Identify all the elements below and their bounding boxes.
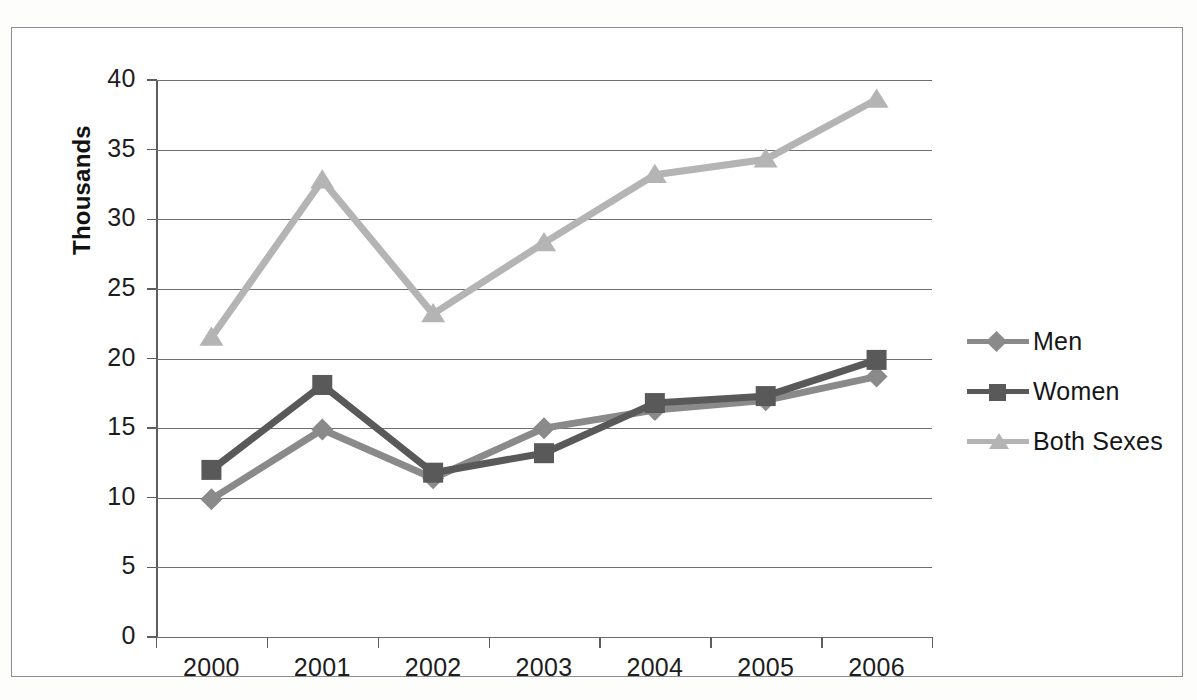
legend-item-men[interactable]: Men: [967, 316, 1192, 366]
data-point-2006: [865, 88, 889, 107]
x-tick-2: [378, 637, 379, 648]
y-axis-label-35: 35: [74, 134, 136, 163]
legend-item-women[interactable]: Women: [967, 366, 1192, 416]
data-point-2001: [310, 169, 334, 188]
y-axis-label-20: 20: [74, 343, 136, 372]
x-tick-0: [156, 637, 157, 648]
legend-swatch: [967, 330, 1029, 352]
x-tick-1: [267, 637, 268, 648]
data-point-2002: [423, 463, 443, 483]
data-point-2000: [201, 460, 221, 480]
legend-label: Women: [1033, 377, 1120, 406]
chart-page: Thousands 0510152025303540 2000200120022…: [0, 0, 1197, 700]
legend-marker-diamond-icon: [986, 331, 1007, 352]
legend-item-both-sexes[interactable]: Both Sexes: [967, 416, 1192, 466]
x-tick-4: [599, 637, 600, 648]
x-axis-label-2005: 2005: [706, 653, 826, 682]
x-tick-5: [710, 637, 711, 648]
chart-frame: Thousands 0510152025303540 2000200120022…: [11, 27, 1183, 677]
data-point-2005: [756, 386, 776, 406]
data-point-2001: [312, 375, 332, 395]
x-axis-label-2000: 2000: [151, 653, 271, 682]
y-axis-label-10: 10: [74, 482, 136, 511]
x-axis-label-2002: 2002: [373, 653, 493, 682]
gridline-0: [156, 637, 932, 638]
legend-marker-triangle-icon: [989, 433, 1009, 449]
y-axis-label-0: 0: [74, 621, 136, 650]
series-both-sexes: [199, 88, 888, 345]
legend-label: Both Sexes: [1033, 427, 1163, 456]
data-point-2004: [645, 393, 665, 413]
x-tick-7: [932, 637, 933, 648]
y-axis-label-15: 15: [74, 412, 136, 441]
x-tick-3: [489, 637, 490, 648]
data-point-2003: [533, 417, 555, 439]
x-axis-label-2004: 2004: [595, 653, 715, 682]
series-plot: [156, 80, 932, 637]
legend-swatch: [967, 380, 1029, 402]
y-axis-label-5: 5: [74, 551, 136, 580]
legend-swatch: [967, 430, 1029, 452]
x-axis-label-2003: 2003: [484, 653, 604, 682]
data-point-2003: [534, 443, 554, 463]
series-women: [201, 350, 886, 483]
chart-legend: MenWomenBoth Sexes: [967, 316, 1192, 466]
legend-marker-square-icon: [989, 384, 1006, 401]
legend-label: Men: [1033, 327, 1082, 356]
x-axis-label-2006: 2006: [817, 653, 937, 682]
x-tick-6: [821, 637, 822, 648]
y-axis-title: Thousands: [68, 95, 96, 285]
y-axis-label-25: 25: [74, 273, 136, 302]
plot-area: [156, 80, 932, 637]
series-line: [211, 100, 876, 338]
x-axis-label-2001: 2001: [262, 653, 382, 682]
y-axis-label-30: 30: [74, 203, 136, 232]
data-point-2006: [867, 350, 887, 370]
y-axis-label-40: 40: [74, 64, 136, 93]
